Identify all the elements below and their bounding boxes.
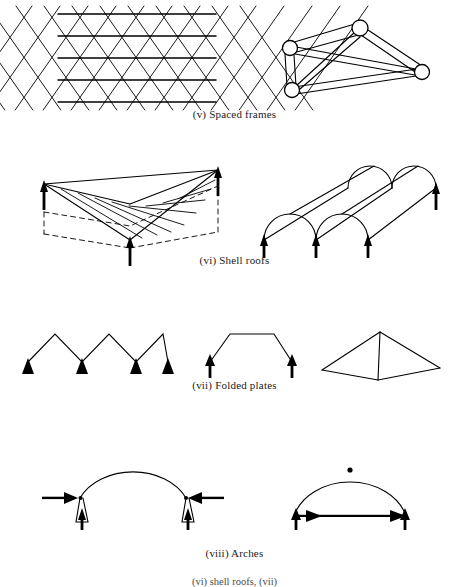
support-arrow-up — [287, 354, 297, 378]
support-arrow-up — [184, 508, 192, 530]
arch-springing-blocks — [76, 498, 194, 522]
lattice-member — [0, 6, 5, 110]
hypar-generator-lines — [61, 180, 215, 238]
hypar-shell-edges — [44, 170, 218, 240]
arch-thrust-arrows — [42, 492, 224, 504]
truss-node — [285, 83, 300, 98]
arch-vertical-reactions — [78, 508, 192, 530]
pyramid-plate-edges — [322, 332, 440, 380]
caption-spaced-frames: (v) Spaced frames — [0, 108, 469, 120]
barrel-vault-support-arrows — [260, 182, 440, 258]
tied-arch-rib — [294, 482, 406, 516]
figure-sheet: (v) Spaced frames — [0, 0, 469, 587]
lattice-grid-diagram — [42, 8, 222, 104]
support-triangle — [22, 358, 34, 374]
truss-node — [415, 65, 430, 80]
caption-arches: (viii) Arches — [0, 547, 469, 559]
truss-node — [352, 20, 368, 36]
fixed-arch-diagram — [18, 462, 223, 530]
pyramid-folded-plate-diagram — [316, 326, 456, 382]
support-triangle — [130, 358, 142, 374]
thrust-arrow-left — [188, 492, 224, 504]
lattice-member — [0, 6, 60, 110]
caption-shell-roofs: (vi) Shell roofs — [0, 254, 469, 266]
zigzag-plate-profile — [28, 334, 168, 362]
tied-arch-crown-hinge — [347, 467, 352, 472]
barrel-vault-diagram — [248, 150, 453, 258]
lattice-member — [0, 6, 33, 110]
hypar-support-arrows — [40, 166, 222, 266]
barrel-vault-surface — [264, 166, 436, 240]
hinge-dot — [184, 496, 188, 500]
truss-node — [283, 41, 298, 56]
fixed-arch-rib — [80, 472, 186, 498]
support-triangle — [162, 358, 174, 374]
thrust-arrow-right — [42, 492, 78, 504]
zigzag-folded-plate-diagram — [18, 322, 178, 374]
space-truss-diagram — [262, 16, 442, 106]
caption-folded-plates: (vii) Folded plates — [0, 379, 469, 391]
hinge-dot — [347, 467, 352, 472]
hypar-shell-diagram — [30, 168, 235, 258]
tied-arch-diagram — [250, 462, 450, 530]
trapezoid-folded-plate-diagram — [196, 322, 306, 378]
support-triangle — [76, 358, 88, 374]
tie-rod — [296, 510, 406, 522]
zigzag-plate-supports — [22, 358, 174, 374]
hinge-dot — [79, 496, 83, 500]
support-arrow-up — [432, 182, 440, 210]
arch-hinge-dots — [79, 496, 189, 500]
trapezoid-plate-profile — [210, 334, 292, 362]
support-arrow-up — [291, 508, 301, 530]
support-arrow-up — [78, 508, 86, 530]
tie-arrowhead-right — [306, 510, 322, 522]
support-arrow-up — [400, 508, 410, 530]
cut-off-figure-caption: (vi) shell roofs, (vii) — [0, 576, 469, 587]
trapezoid-plate-supports — [205, 354, 297, 378]
